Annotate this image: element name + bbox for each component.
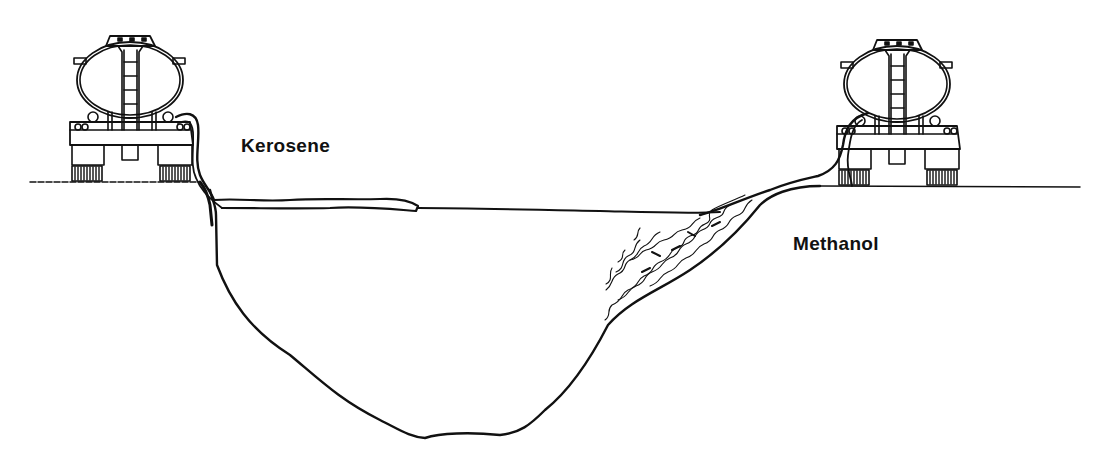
spill-diagram	[0, 0, 1104, 459]
kerosene-hose	[176, 114, 214, 200]
methanol-plume	[605, 195, 752, 320]
kerosene-label: Kerosene	[241, 135, 330, 157]
right-tanker-truck	[837, 40, 960, 185]
left-tanker-truck	[70, 36, 193, 181]
ground-line-right	[820, 186, 1080, 187]
water-surface	[418, 208, 720, 213]
methanol-label: Methanol	[793, 233, 879, 255]
kerosene-layer	[214, 199, 418, 211]
